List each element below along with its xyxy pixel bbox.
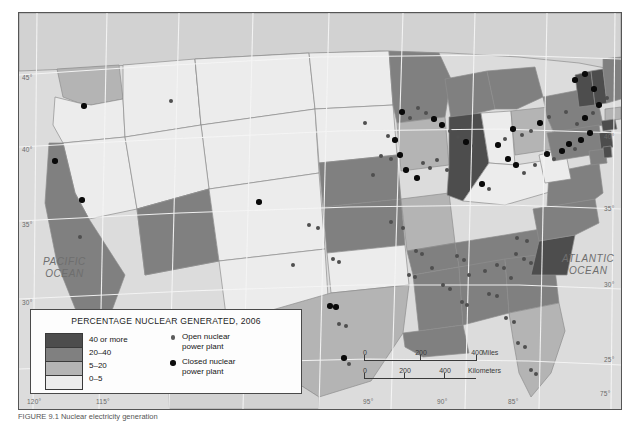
open-nuclear-plant-marker xyxy=(407,273,411,277)
open-nuclear-plant-marker xyxy=(462,258,466,262)
closed-nuclear-plant-marker xyxy=(572,77,578,83)
atlantic-ocean-label: ATLANTICOCEAN xyxy=(562,253,614,277)
open-nuclear-plant-marker xyxy=(347,362,351,366)
open-nuclear-plant-marker xyxy=(445,168,449,172)
closed-nuclear-plant-marker xyxy=(52,158,58,164)
open-nuclear-plant-marker xyxy=(455,254,459,258)
open-nuclear-plant-marker xyxy=(363,121,367,125)
open-nuclear-plant-marker xyxy=(573,147,577,151)
open-nuclear-plant-marker xyxy=(515,236,519,240)
open-nuclear-plant-marker xyxy=(435,158,439,162)
open-nuclear-plant-marker xyxy=(379,154,383,158)
closed-nuclear-plant-marker xyxy=(439,122,445,128)
open-nuclear-plant-marker xyxy=(564,110,568,114)
legend-class-label-2: 5–20 xyxy=(89,359,128,372)
legend-swatch-column xyxy=(45,333,83,390)
open-nuclear-plant-marker xyxy=(307,223,311,227)
open-nuclear-plant-marker xyxy=(430,266,434,270)
open-nuclear-plant-marker xyxy=(502,266,506,270)
open-nuclear-plant-marker xyxy=(495,263,499,267)
open-nuclear-plant-marker xyxy=(371,173,375,177)
legend-dot-wrap xyxy=(164,332,182,340)
closed-nuclear-plant-marker xyxy=(431,116,437,122)
open-nuclear-plant-marker xyxy=(337,322,341,326)
legend-class-label-0: 40 or more xyxy=(89,333,128,346)
open-nuclear-plant-marker xyxy=(386,134,390,138)
open-nuclear-plant-marker xyxy=(516,341,520,345)
legend-plant-text-closed: Closed nuclearpower plant xyxy=(182,357,235,376)
legend-title: PERCENTAGE NUCLEAR GENERATED, 2006 xyxy=(31,316,301,326)
scale-label-0: 0 xyxy=(363,349,367,356)
pacific-ocean-label: PACIFICOCEAN xyxy=(43,256,86,280)
closed-nuclear-plant-marker xyxy=(81,103,87,109)
ocean-label-line2: OCEAN xyxy=(43,268,86,280)
open-nuclear-plant-marker xyxy=(520,133,524,137)
open-nuclear-plant-marker xyxy=(522,257,526,261)
graticule-label-lat-right: 30° xyxy=(604,281,614,288)
open-nuclear-plant-marker xyxy=(414,249,418,253)
open-nuclear-plant-marker xyxy=(529,129,533,133)
legend-plant-text-open: Open nuclearpower plant xyxy=(182,332,230,351)
closed-nuclear-plant-marker xyxy=(537,120,543,126)
open-nuclear-plant-marker xyxy=(552,157,556,161)
graticule-label-lat-left: 30° xyxy=(22,299,32,306)
open-nuclear-plant-marker xyxy=(424,111,428,115)
scale-bar-kilometers: 0 200 400 Kilometers xyxy=(360,370,510,388)
graticule-label-lon-top: 75° xyxy=(600,390,610,397)
open-nuclear-plant-marker xyxy=(413,275,417,279)
open-nuclear-plant-marker xyxy=(344,324,348,328)
open-plant-icon xyxy=(171,335,176,340)
open-nuclear-plant-marker xyxy=(337,260,341,264)
legend-swatch-2 xyxy=(46,362,82,376)
legend-class-label-3: 0–5 xyxy=(89,372,128,385)
legend-plant-row-open: Open nuclearpower plant xyxy=(164,332,235,351)
open-nuclear-plant-marker xyxy=(509,276,513,280)
scale-label-km-0: 0 xyxy=(363,367,367,374)
open-nuclear-plant-marker xyxy=(605,96,609,100)
open-nuclear-plant-marker xyxy=(78,235,82,239)
open-nuclear-plant-marker xyxy=(448,287,452,291)
legend-plant-line2: power plant xyxy=(182,367,235,377)
legend-plant-key: Open nuclearpower plantClosed nuclearpow… xyxy=(164,332,235,382)
closed-nuclear-plant-marker xyxy=(505,156,511,162)
open-nuclear-plant-marker xyxy=(389,220,393,224)
open-nuclear-plant-marker xyxy=(523,345,527,349)
open-nuclear-plant-marker xyxy=(534,372,538,376)
closed-nuclear-plant-marker xyxy=(582,71,588,77)
legend-dot-wrap xyxy=(164,357,182,366)
legend-swatch-1 xyxy=(46,348,82,362)
closed-nuclear-plant-marker xyxy=(578,137,584,143)
open-nuclear-plant-marker xyxy=(495,294,499,298)
open-nuclear-plant-marker xyxy=(487,292,491,296)
graticule-label-lon-bottom: 85° xyxy=(508,398,518,405)
scale-label-km-400: 400 xyxy=(439,367,451,374)
scale-label-200: 200 xyxy=(415,349,427,356)
open-nuclear-plant-marker xyxy=(448,129,452,133)
closed-nuclear-plant-marker xyxy=(596,102,602,108)
closed-nuclear-plant-marker xyxy=(495,142,501,148)
open-nuclear-plant-marker xyxy=(169,99,173,103)
closed-nuclear-plant-marker xyxy=(341,355,347,361)
open-nuclear-plant-marker xyxy=(529,368,533,372)
open-nuclear-plant-marker xyxy=(291,263,295,267)
closed-nuclear-plant-marker xyxy=(399,109,405,115)
open-nuclear-plant-marker xyxy=(408,116,412,120)
open-nuclear-plant-marker xyxy=(401,226,405,230)
scale-label-km-200: 200 xyxy=(399,367,411,374)
closed-nuclear-plant-marker xyxy=(587,130,593,136)
graticule-label-lon-bottom: 90° xyxy=(437,398,447,405)
legend-plant-line2: power plant xyxy=(182,342,230,352)
open-nuclear-plant-marker xyxy=(529,261,533,265)
open-nuclear-plant-marker xyxy=(472,144,476,148)
closed-nuclear-plant-marker xyxy=(591,86,597,92)
figure-root: .st{stroke:#8e8e8e;stroke-width:.7;} .c4… xyxy=(0,0,635,427)
map-legend: PERCENTAGE NUCLEAR GENERATED, 2006 40 or… xyxy=(30,309,302,394)
open-nuclear-plant-marker xyxy=(503,137,507,141)
closed-plant-icon xyxy=(170,360,176,366)
open-nuclear-plant-marker xyxy=(514,252,518,256)
open-nuclear-plant-marker xyxy=(331,257,335,261)
open-nuclear-plant-marker xyxy=(575,122,579,126)
legend-plant-line1: Closed nuclear xyxy=(182,357,235,367)
closed-nuclear-plant-marker xyxy=(256,199,262,205)
closed-nuclear-plant-marker xyxy=(403,167,409,173)
